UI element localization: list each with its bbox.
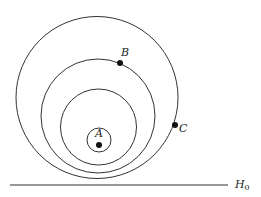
point-a xyxy=(96,142,102,148)
label-c: C xyxy=(179,122,188,135)
label-h-subscript: 0 xyxy=(245,183,250,192)
label-a: A xyxy=(94,127,103,140)
point-b xyxy=(117,60,123,66)
outer-circle xyxy=(16,17,178,179)
circle-diagram: A B C H0 xyxy=(0,0,261,197)
label-h: H xyxy=(234,178,245,191)
middle-circle xyxy=(41,59,155,173)
label-h0: H0 xyxy=(234,178,250,192)
label-b: B xyxy=(120,46,129,59)
point-c xyxy=(172,122,178,128)
